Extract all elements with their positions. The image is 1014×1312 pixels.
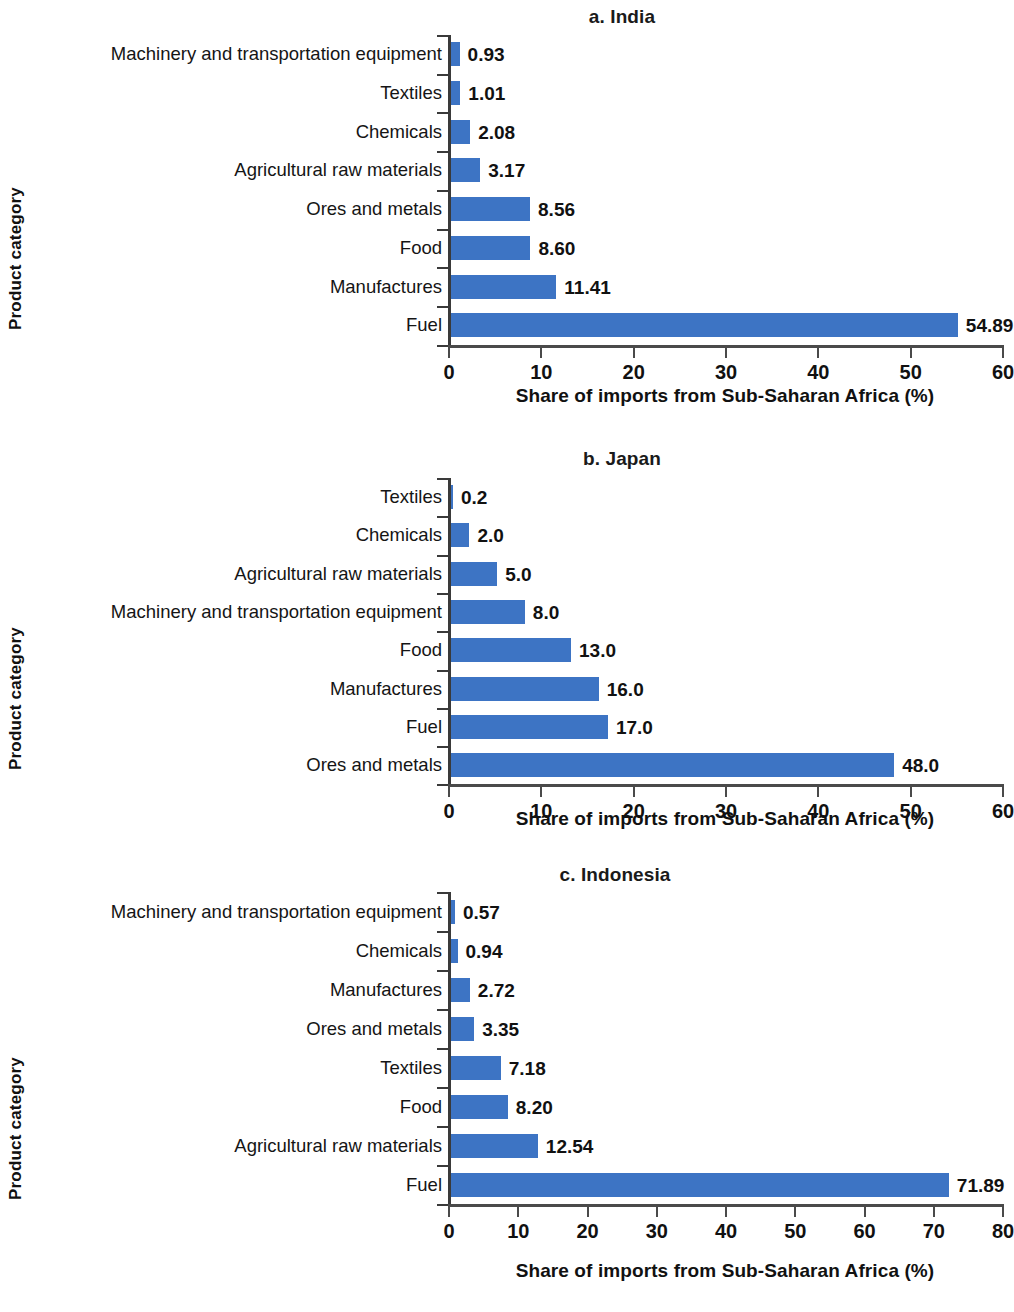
bar-value-label: 0.93 <box>468 45 505 64</box>
bar-value-label: 1.01 <box>468 84 505 103</box>
category-label: Agricultural raw materials <box>0 161 442 180</box>
bar-value-label: 3.35 <box>482 1020 519 1039</box>
bar <box>451 562 497 586</box>
bar-value-label: 0.57 <box>463 903 500 922</box>
bar <box>451 638 571 662</box>
x-axis-title: Share of imports from Sub-Saharan Africa… <box>448 808 1002 830</box>
x-axis-tick-label: 40 <box>807 362 829 382</box>
category-label: Food <box>0 641 442 660</box>
bar-value-label: 8.20 <box>516 1098 553 1117</box>
bar <box>451 523 469 547</box>
bar-value-label: 8.56 <box>538 200 575 219</box>
x-axis-tick <box>910 787 912 797</box>
category-label: Chemicals <box>0 123 442 142</box>
bar <box>451 275 556 299</box>
x-axis-tick-label: 60 <box>853 1221 875 1241</box>
plot-area: Textiles0.2Chemicals2.0Agricultural raw … <box>448 478 1006 824</box>
category-label: Textiles <box>0 1059 442 1078</box>
bar-value-label: 5.0 <box>505 565 531 584</box>
y-axis-tick <box>437 593 448 595</box>
bar <box>451 485 453 509</box>
y-axis-tick <box>437 1087 448 1089</box>
category-label: Fuel <box>0 316 442 335</box>
plot-area: Machinery and transportation equipment0.… <box>448 35 1006 385</box>
bar-value-label: 0.94 <box>466 942 503 961</box>
bar <box>451 158 480 182</box>
x-axis-tick-label: 50 <box>784 1221 806 1241</box>
y-axis-tick <box>437 345 448 347</box>
bar-value-label: 2.08 <box>478 123 515 142</box>
chart-title: a. India <box>0 6 1012 28</box>
x-axis-tick-label: 60 <box>992 362 1014 382</box>
x-axis-tick <box>633 348 635 358</box>
x-axis-tick <box>448 787 450 797</box>
x-axis-tick <box>448 1207 450 1217</box>
x-axis-tick-label: 10 <box>507 1221 529 1241</box>
category-label: Food <box>0 239 442 258</box>
y-axis-tick <box>437 306 448 308</box>
y-axis-tick <box>437 746 448 748</box>
category-label: Agricultural raw materials <box>0 1137 442 1156</box>
y-axis-tick <box>437 74 448 76</box>
x-axis-tick <box>1002 348 1004 358</box>
bar-value-label: 7.18 <box>509 1059 546 1078</box>
bar <box>451 1134 538 1158</box>
bar-value-label: 11.41 <box>564 278 611 297</box>
chart-panel-indonesia: c. Indonesia Product category Machinery … <box>0 860 1012 1312</box>
x-axis-tick <box>933 1207 935 1217</box>
bar <box>451 1095 508 1119</box>
y-axis-tick <box>437 112 448 114</box>
x-axis-tick <box>817 348 819 358</box>
x-axis-tick <box>517 1207 519 1217</box>
y-axis-tick <box>437 931 448 933</box>
category-label: Manufactures <box>0 278 442 297</box>
y-axis-tick <box>437 970 448 972</box>
y-axis-tick <box>437 1165 448 1167</box>
x-axis-tick-label: 30 <box>715 362 737 382</box>
x-axis-tick <box>587 1207 589 1217</box>
y-axis-tick <box>437 708 448 710</box>
y-axis-tick <box>437 478 448 480</box>
y-axis-tick <box>437 229 448 231</box>
bar <box>451 197 530 221</box>
category-label: Fuel <box>0 718 442 737</box>
x-axis-tick-label: 40 <box>715 1221 737 1241</box>
category-label: Machinery and transportation equipment <box>0 45 442 64</box>
x-axis-tick <box>725 787 727 797</box>
x-axis-tick-label: 10 <box>530 362 552 382</box>
category-label: Agricultural raw materials <box>0 565 442 584</box>
category-label: Food <box>0 1098 442 1117</box>
y-axis-tick <box>437 1204 448 1206</box>
bar-value-label: 8.0 <box>533 603 559 622</box>
bar-value-label: 48.0 <box>902 756 939 775</box>
bar-value-label: 17.0 <box>616 718 653 737</box>
category-label: Chemicals <box>0 942 442 961</box>
x-axis-tick <box>633 787 635 797</box>
chart-title: b. Japan <box>0 448 1012 470</box>
y-axis-tick <box>437 631 448 633</box>
bar <box>451 939 458 963</box>
bar <box>451 236 530 260</box>
bar <box>451 715 608 739</box>
x-axis-tick <box>864 1207 866 1217</box>
bar <box>451 1056 501 1080</box>
x-axis-tick <box>725 348 727 358</box>
bar-value-label: 8.60 <box>538 239 575 258</box>
bar-value-label: 16.0 <box>607 680 644 699</box>
bar <box>451 1173 949 1197</box>
x-axis-tick <box>794 1207 796 1217</box>
bar-value-label: 54.89 <box>966 316 1014 335</box>
bar-value-label: 71.89 <box>957 1176 1005 1195</box>
y-axis-tick <box>437 1009 448 1011</box>
x-axis-tick <box>817 787 819 797</box>
x-axis-title: Share of imports from Sub-Saharan Africa… <box>448 385 1002 407</box>
bar-value-label: 3.17 <box>488 161 525 180</box>
chart-title: c. Indonesia <box>0 864 1012 886</box>
category-label: Manufactures <box>0 680 442 699</box>
category-label: Ores and metals <box>0 200 442 219</box>
x-axis-tick-label: 20 <box>623 362 645 382</box>
x-axis-tick <box>1002 1207 1004 1217</box>
category-label: Machinery and transportation equipment <box>0 903 442 922</box>
x-axis-tick-label: 0 <box>443 362 454 382</box>
